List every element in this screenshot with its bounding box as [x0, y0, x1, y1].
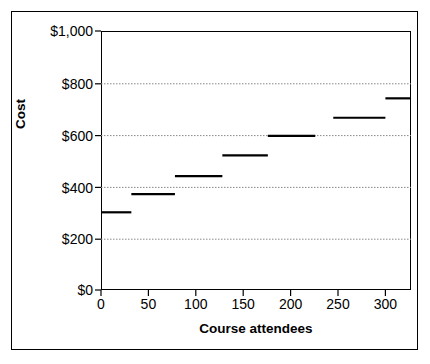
chart-figure: $1,000 $800 $600 $400 $200 $0 0 50 100 1… [0, 0, 430, 364]
x-tick-label-300: 300 [374, 297, 397, 311]
x-tick-label-50: 50 [141, 297, 157, 311]
x-tick-label-0: 0 [97, 297, 105, 311]
x-tick-label-250: 250 [326, 297, 349, 311]
y-axis-title: Cost [14, 99, 28, 129]
x-axis-labels: 0 50 100 150 200 250 300 [0, 0, 430, 364]
x-tick-label-100: 100 [184, 297, 207, 311]
x-tick-label-150: 150 [232, 297, 255, 311]
x-axis-title: Course attendees [101, 322, 411, 336]
x-tick-label-200: 200 [279, 297, 302, 311]
